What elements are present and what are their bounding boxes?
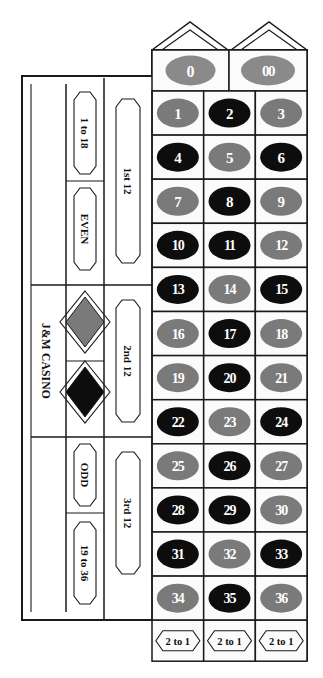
pocket-label-30: 30	[275, 503, 288, 518]
casino-name-label: J&M CASINO	[40, 323, 52, 399]
pocket-label-0: 0	[187, 63, 195, 80]
bet-cell-4[interactable]: 4	[152, 135, 204, 179]
column-bet-label: 2 to 1	[269, 636, 294, 647]
pocket-label-31: 31	[172, 547, 185, 562]
bet-cell-28[interactable]: 28	[152, 488, 204, 532]
pocket-label-24: 24	[275, 415, 288, 430]
dozen-2-label: 2nd 12	[122, 345, 134, 377]
bet-cell-5[interactable]: 5	[204, 135, 256, 179]
bet-cell-16[interactable]: 16	[152, 312, 204, 356]
pocket-label-18: 18	[275, 327, 288, 342]
pocket-label-29: 29	[224, 503, 237, 518]
bet-cell-20[interactable]: 20	[204, 356, 256, 400]
red-diamond-icon	[66, 297, 104, 347]
bet-cell-22[interactable]: 22	[152, 400, 204, 444]
bet-cell-23[interactable]: 23	[204, 400, 256, 444]
pocket-label-1: 1	[174, 106, 181, 122]
pocket-label-00: 00	[262, 63, 275, 79]
bet-cell-19-to-36[interactable]: 19 to 36	[74, 522, 96, 604]
roulette-table-layout: 0 00 12345678910111213141516171819202122…	[0, 0, 323, 678]
bet-cell-2[interactable]: 2	[204, 91, 256, 135]
number-grid: 1234567891011121314151617181920212223242…	[152, 91, 307, 620]
column-bet-label: 2 to 1	[217, 636, 242, 647]
pocket-label-14: 14	[224, 282, 237, 297]
bet-cell-33[interactable]: 33	[255, 532, 307, 576]
bet-cell-dozen-2[interactable]: 2nd 12	[116, 300, 140, 422]
bet-cell-8[interactable]: 8	[204, 179, 256, 223]
bet-cell-25[interactable]: 25	[152, 444, 204, 488]
bet-cell-17[interactable]: 17	[204, 312, 256, 356]
bet-cell-1[interactable]: 1	[152, 91, 204, 135]
bet-cell-9[interactable]: 9	[255, 179, 307, 223]
casino-name-plate: J&M CASINO	[40, 323, 52, 399]
pocket-label-3: 3	[278, 106, 285, 122]
pocket-label-13: 13	[172, 282, 185, 297]
pocket-label-16: 16	[172, 327, 185, 342]
pocket-label-15: 15	[275, 282, 288, 297]
pocket-label-5: 5	[226, 150, 233, 166]
bet-cell-31[interactable]: 31	[152, 532, 204, 576]
bet-cell-even[interactable]: EVEN	[74, 188, 96, 270]
pocket-label-11: 11	[224, 238, 236, 253]
pocket-label-7: 7	[174, 194, 182, 210]
bet-cell-29[interactable]: 29	[204, 488, 256, 532]
bet-cell-3[interactable]: 3	[255, 91, 307, 135]
pocket-label-28: 28	[172, 503, 185, 518]
bet-cell-12[interactable]: 12	[255, 223, 307, 267]
bet-odd-label: ODD	[79, 463, 91, 488]
bet-cell-19[interactable]: 19	[152, 356, 204, 400]
dozen-1-label: 1st 12	[122, 167, 134, 195]
bet-cell-34[interactable]: 34	[152, 576, 204, 620]
bet-cell-column-1[interactable]: 2 to 1	[152, 620, 204, 661]
dozen-3-label: 3rd 12	[122, 498, 134, 529]
pocket-label-9: 9	[278, 194, 285, 210]
bet-cell-15[interactable]: 15	[255, 267, 307, 311]
bet-cell-13[interactable]: 13	[152, 267, 204, 311]
pocket-label-27: 27	[275, 459, 288, 474]
pocket-label-22: 22	[172, 415, 185, 430]
bet-cell-10[interactable]: 10	[152, 223, 204, 267]
pocket-label-17: 17	[224, 327, 237, 342]
zero-section: 0 00	[152, 22, 307, 91]
bet-cell-11[interactable]: 11	[204, 223, 256, 267]
bet-cell-0[interactable]: 0	[152, 50, 229, 91]
bet-cell-32[interactable]: 32	[204, 532, 256, 576]
bet-cell-red[interactable]	[60, 291, 110, 353]
bet-1-to-18-label: 1 to 18	[79, 117, 91, 149]
bet-cell-odd[interactable]: ODD	[74, 444, 96, 506]
bet-even-label: EVEN	[79, 214, 91, 245]
bet-cell-26[interactable]: 26	[204, 444, 256, 488]
pocket-label-32: 32	[224, 547, 237, 562]
bet-cell-column-3[interactable]: 2 to 1	[255, 620, 307, 661]
pocket-label-8: 8	[226, 194, 233, 210]
bet-cell-35[interactable]: 35	[204, 576, 256, 620]
bet-cell-dozen-1[interactable]: 1st 12	[116, 99, 140, 263]
black-diamond-icon	[66, 367, 104, 417]
bet-cell-7[interactable]: 7	[152, 179, 204, 223]
bet-cell-black[interactable]	[60, 361, 110, 423]
bet-cell-36[interactable]: 36	[255, 576, 307, 620]
bet-cell-1-to-18[interactable]: 1 to 18	[74, 92, 96, 174]
bet-cell-14[interactable]: 14	[204, 267, 256, 311]
bet-cell-18[interactable]: 18	[255, 312, 307, 356]
bet-cell-24[interactable]: 24	[255, 400, 307, 444]
pocket-label-33: 33	[275, 547, 288, 562]
bet-cell-27[interactable]: 27	[255, 444, 307, 488]
pocket-label-20: 20	[224, 371, 237, 386]
pocket-label-35: 35	[224, 591, 237, 606]
pocket-label-12: 12	[275, 238, 288, 253]
column-bet-label: 2 to 1	[166, 636, 191, 647]
bet-cell-00[interactable]: 00	[229, 50, 307, 91]
bet-cell-21[interactable]: 21	[255, 356, 307, 400]
pocket-label-21: 21	[275, 371, 288, 386]
bet-cell-column-2[interactable]: 2 to 1	[204, 620, 256, 661]
pocket-label-26: 26	[224, 459, 237, 474]
bet-cell-6[interactable]: 6	[255, 135, 307, 179]
bet-cell-dozen-3[interactable]: 3rd 12	[116, 452, 140, 574]
pocket-label-25: 25	[172, 459, 185, 474]
pocket-label-19: 19	[172, 371, 185, 386]
bet-cell-30[interactable]: 30	[255, 488, 307, 532]
outside-bets-column: 1 to 18 EVEN ODD	[40, 84, 110, 612]
pocket-label-10: 10	[172, 238, 185, 253]
pocket-label-4: 4	[174, 150, 182, 166]
